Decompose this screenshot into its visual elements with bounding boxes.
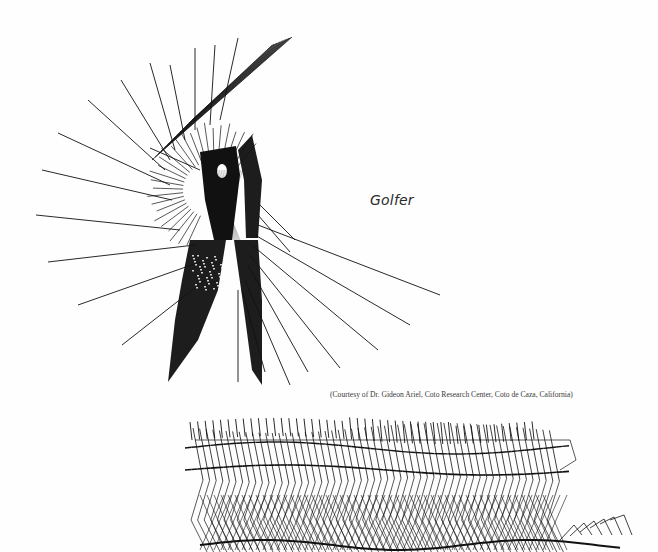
golfer-motion-trace-illustration: [0, 0, 658, 400]
golfer-stick-figure-drawing: [0, 0, 658, 400]
book-page: Golfer (Courtesy of Dr. Gideon Ariel, Co…: [0, 0, 658, 552]
runner-motion-trace-illustration: [0, 400, 658, 552]
runner-stick-figure-drawing: [0, 400, 658, 552]
courtesy-credit-line: (Courtesy of Dr. Gideon Ariel, Coto Rese…: [330, 390, 573, 399]
golfer-caption: Golfer: [370, 192, 414, 208]
